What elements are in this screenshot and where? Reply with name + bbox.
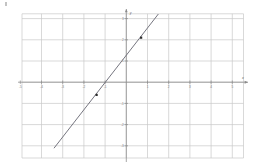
y-axis-arrow-icon <box>125 9 128 12</box>
x-axis-tick-label: 1 <box>147 85 149 89</box>
data-point-marker <box>96 94 98 96</box>
x-axis-tick-label: -4 <box>40 85 43 89</box>
x-axis-tick-label: 2 <box>168 85 170 89</box>
x-axis-tick-label: -5 <box>19 85 22 89</box>
axes-group <box>18 9 248 162</box>
y-axis-tick-label: -1 <box>121 102 124 106</box>
x-axis-tick-label: -1 <box>104 85 107 89</box>
plotted-line <box>54 14 158 148</box>
plotted-points <box>96 37 143 96</box>
x-axis-tick-label: -3 <box>61 85 64 89</box>
x-axis-tick-label: 4 <box>210 85 212 89</box>
x-axis-tick-label: -2 <box>83 85 86 89</box>
graph-figure: -5-4-3-2-112345 -3-2-1123 x y <box>0 0 255 165</box>
scan-artifact-speck <box>5 2 7 6</box>
y-axis-tick-label: -3 <box>121 144 124 148</box>
y-axis-tick-label: -2 <box>121 123 124 127</box>
y-axis-tick-label: 3 <box>122 17 124 21</box>
data-point-marker <box>140 37 142 39</box>
x-axis-tick-label: 5 <box>231 85 233 89</box>
coordinate-plane-svg: -5-4-3-2-112345 -3-2-1123 x y <box>0 0 255 165</box>
x-axis-label: x <box>241 76 244 80</box>
x-axis-tick-label: 3 <box>189 85 191 89</box>
y-axis-label: y <box>129 11 132 15</box>
y-axis-tick-label: 2 <box>122 38 124 42</box>
x-axis-arrow-icon <box>245 81 248 84</box>
